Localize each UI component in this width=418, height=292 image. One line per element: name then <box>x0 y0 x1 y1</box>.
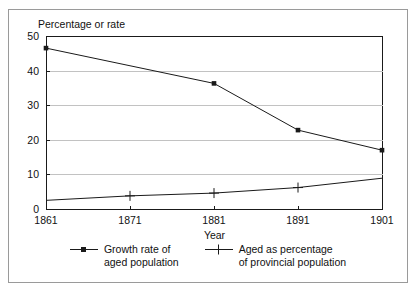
data-point-marker <box>209 188 219 198</box>
legend-item: Growth rate of aged population <box>70 243 179 268</box>
legend-item: Aged as percentage of provincial populat… <box>205 243 346 268</box>
plot-area <box>46 36 383 210</box>
y-tick-label: 40 <box>27 66 39 77</box>
legend-item-label: Growth rate of aged population <box>104 243 179 268</box>
data-point-marker <box>296 128 301 133</box>
x-tick-label: 1871 <box>105 215 155 226</box>
series-layer <box>46 36 383 210</box>
chart-legend: Growth rate of aged population Aged as p… <box>9 243 407 268</box>
line-square-marker-icon <box>70 243 98 256</box>
x-tick-label: 1891 <box>273 215 323 226</box>
x-tick-label: 1901 <box>357 215 407 226</box>
series-line <box>46 48 382 150</box>
y-tick-label: 50 <box>27 31 39 42</box>
legend-item-label: Aged as percentage of provincial populat… <box>239 243 346 268</box>
y-tick-label: 20 <box>27 135 39 146</box>
chart-figure: Percentage or rate 01020304050 186118711… <box>8 9 408 283</box>
data-point-marker <box>380 148 385 153</box>
data-point-marker <box>125 191 135 201</box>
y-tick-label: 10 <box>27 169 39 180</box>
line-plus-marker-icon <box>205 243 233 256</box>
y-tick-label: 0 <box>33 204 39 215</box>
data-point-marker <box>293 183 303 193</box>
data-point-marker <box>44 46 49 51</box>
x-axis-title: Year <box>155 230 275 241</box>
data-point-marker <box>212 81 217 86</box>
x-tick-label: 1881 <box>189 215 239 226</box>
y-axis-title: Percentage or rate <box>38 18 125 30</box>
y-tick-label: 30 <box>27 100 39 111</box>
x-tick-label: 1861 <box>21 215 71 226</box>
